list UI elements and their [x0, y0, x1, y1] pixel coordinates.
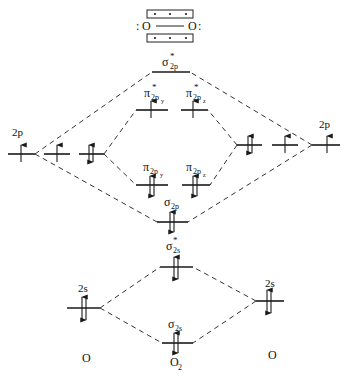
svg-text:z: z	[203, 98, 206, 104]
svg-text:*: *	[173, 235, 178, 245]
svg-text:σ: σ	[168, 317, 175, 331]
mo-diagram: : O O : 2p	[0, 0, 347, 380]
svg-text:2p: 2p	[151, 93, 159, 102]
right-2s-orbital: 2s	[256, 277, 284, 313]
svg-text:*: *	[152, 82, 157, 92]
svg-text:σ: σ	[166, 239, 173, 253]
mo-sigma-2s: σ 2s	[162, 317, 193, 353]
atom-label-right: O	[268, 348, 277, 362]
right-2s-label: 2s	[265, 277, 275, 289]
lewis-left-atom: O	[142, 19, 151, 33]
svg-text:π: π	[186, 86, 192, 100]
svg-text:y: y	[161, 98, 164, 104]
lewis-left-pair: :	[136, 19, 139, 33]
mo-pi-2pz: π 2p z	[182, 160, 210, 196]
left-2s-label: 2s	[78, 282, 88, 294]
svg-text:y: y	[160, 172, 163, 178]
left-2p-label: 2p	[12, 126, 24, 138]
atom-label-left: O	[82, 351, 91, 365]
svg-text:2p: 2p	[170, 62, 178, 71]
left-2p-orbitals: 2p	[8, 126, 104, 162]
svg-text:σ: σ	[162, 55, 169, 69]
svg-text:σ: σ	[164, 195, 171, 209]
lewis-right-pair: :	[198, 19, 201, 33]
mo-pi-2py: π 2p y	[136, 160, 168, 196]
svg-text:π: π	[144, 86, 150, 100]
right-2p-orbitals: 2p	[237, 118, 340, 153]
svg-text:2p: 2p	[150, 167, 158, 176]
svg-text:2p: 2p	[193, 93, 201, 102]
svg-text:*: *	[194, 82, 199, 92]
svg-text:*: *	[170, 51, 175, 61]
svg-text:2p: 2p	[171, 202, 179, 211]
mo-pi-star-2pz: π * 2p z	[181, 82, 208, 118]
svg-text:2s: 2s	[173, 246, 180, 255]
left-2s-orbital: 2s	[67, 282, 100, 320]
molecule-label: O 2	[170, 355, 182, 372]
mo-pi-star-2py: π * 2p y	[136, 82, 168, 118]
svg-text:2: 2	[178, 363, 182, 372]
mo-sigma-2p: σ 2p	[157, 195, 188, 232]
lewis-right-atom: O	[188, 19, 197, 33]
svg-text:2p: 2p	[193, 167, 201, 176]
svg-text:2s: 2s	[175, 324, 182, 333]
mo-sigma-star-2s: σ * 2s	[160, 235, 193, 279]
svg-text:z: z	[203, 172, 206, 178]
right-2p-label: 2p	[319, 118, 331, 130]
lewis-structure: : O O :	[136, 10, 201, 42]
svg-text:π: π	[143, 160, 149, 174]
mo-sigma-star-2p: σ * 2p	[152, 51, 190, 72]
svg-text:π: π	[186, 160, 192, 174]
